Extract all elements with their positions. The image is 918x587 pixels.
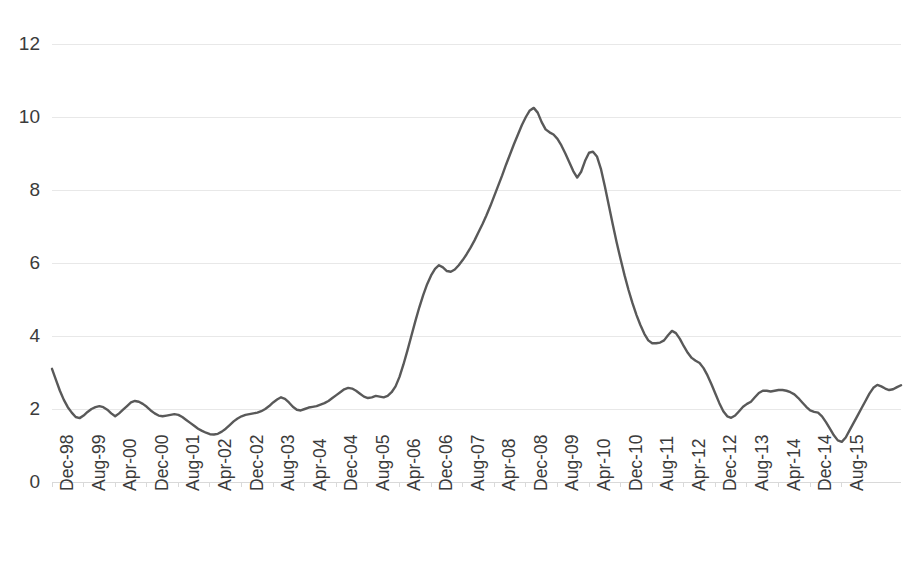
- x-tick-label-Dec-00: Dec-00: [154, 435, 172, 491]
- x-tick-label-Dec-98: Dec-98: [59, 435, 77, 491]
- line-chart: 024681012 Dec-98Aug-99Apr-00Dec-00Aug-01…: [0, 0, 918, 587]
- x-tick-label-Aug-09: Aug-09: [564, 435, 582, 491]
- x-tick-label-Aug-13: Aug-13: [754, 435, 772, 491]
- x-tick-label-Dec-12: Dec-12: [722, 435, 740, 491]
- y-tick-label-10: 10: [4, 107, 40, 126]
- x-tick-label-Dec-10: Dec-10: [628, 435, 646, 491]
- y-tick-label-12: 12: [4, 34, 40, 53]
- x-tick-label-Aug-15: Aug-15: [849, 435, 867, 491]
- x-tick-label-Apr-00: Apr-00: [122, 438, 140, 491]
- y-tick-label-8: 8: [4, 180, 40, 199]
- x-tick-label-Dec-04: Dec-04: [343, 435, 361, 491]
- x-tick-label-Apr-12: Apr-12: [691, 438, 709, 491]
- x-tick-label-Dec-02: Dec-02: [249, 435, 267, 491]
- x-tick-label-Apr-06: Apr-06: [406, 438, 424, 491]
- data-line-series-1: [52, 108, 901, 442]
- chart-canvas: [0, 0, 918, 587]
- x-tick-label-Dec-14: Dec-14: [817, 435, 835, 491]
- x-tick-label-Aug-11: Aug-11: [659, 436, 677, 491]
- x-tick-label-Aug-03: Aug-03: [280, 435, 298, 491]
- x-tick-label-Aug-05: Aug-05: [375, 435, 393, 491]
- x-tick-label-Apr-10: Apr-10: [596, 438, 614, 491]
- x-tick-label-Dec-06: Dec-06: [438, 435, 456, 491]
- x-tick-label-Aug-07: Aug-07: [470, 435, 488, 491]
- y-tick-label-0: 0: [4, 472, 40, 491]
- x-tick-label-Dec-08: Dec-08: [533, 435, 551, 491]
- y-tick-label-6: 6: [4, 253, 40, 272]
- x-tick-label-Aug-99: Aug-99: [91, 435, 109, 491]
- x-tick-label-Apr-02: Apr-02: [217, 438, 235, 491]
- x-tick-label-Aug-01: Aug-01: [185, 435, 203, 491]
- x-tick-label-Apr-08: Apr-08: [501, 438, 519, 491]
- y-tick-label-4: 4: [4, 326, 40, 345]
- x-tick-label-Apr-14: Apr-14: [786, 438, 804, 491]
- y-tick-label-2: 2: [4, 399, 40, 418]
- x-tick-label-Apr-04: Apr-04: [312, 438, 330, 491]
